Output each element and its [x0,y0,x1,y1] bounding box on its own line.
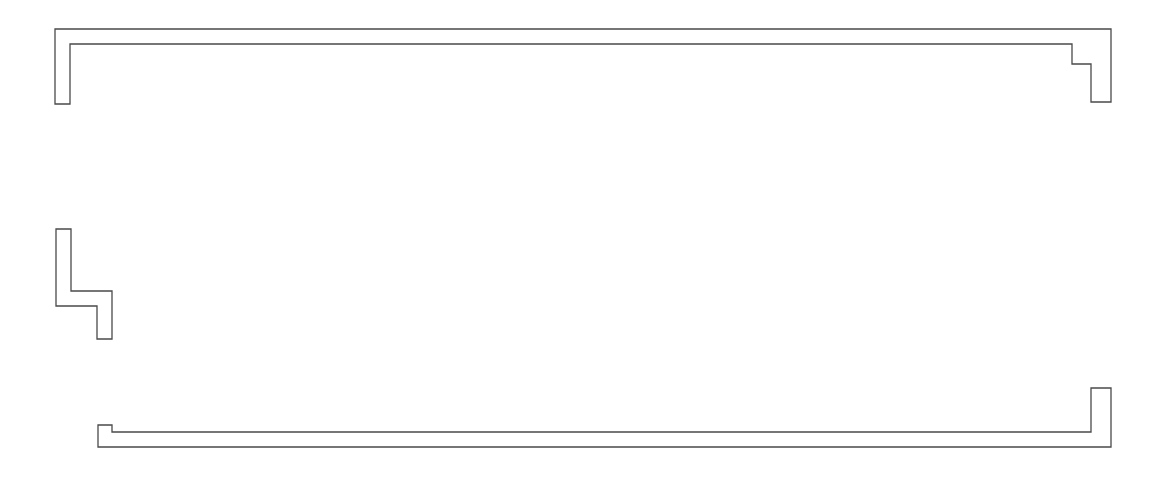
top-wall-outline [55,29,1111,104]
bottom-wall-outline [98,388,1111,447]
middle-left-wall-outline [56,229,112,339]
floor-plan-canvas [0,0,1163,481]
